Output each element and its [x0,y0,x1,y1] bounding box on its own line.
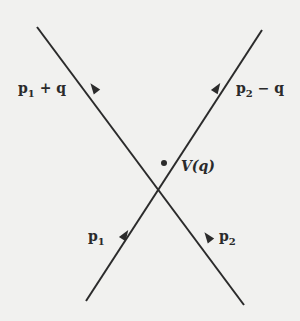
vertex-dot [161,160,167,166]
label-p1: p1 [88,228,105,247]
vertex-label: V(q) [181,158,215,174]
label-p2: p2 [219,228,236,247]
arrow-in2-icon [201,230,214,244]
line-p2-to-p2-minus-q [86,30,262,301]
arrow-out1-icon [87,81,100,95]
label-p1-plus-q: p1 + q [18,80,66,99]
feynman-diagram [0,0,300,321]
label-p2-minus-q: p2 − q [236,80,284,99]
